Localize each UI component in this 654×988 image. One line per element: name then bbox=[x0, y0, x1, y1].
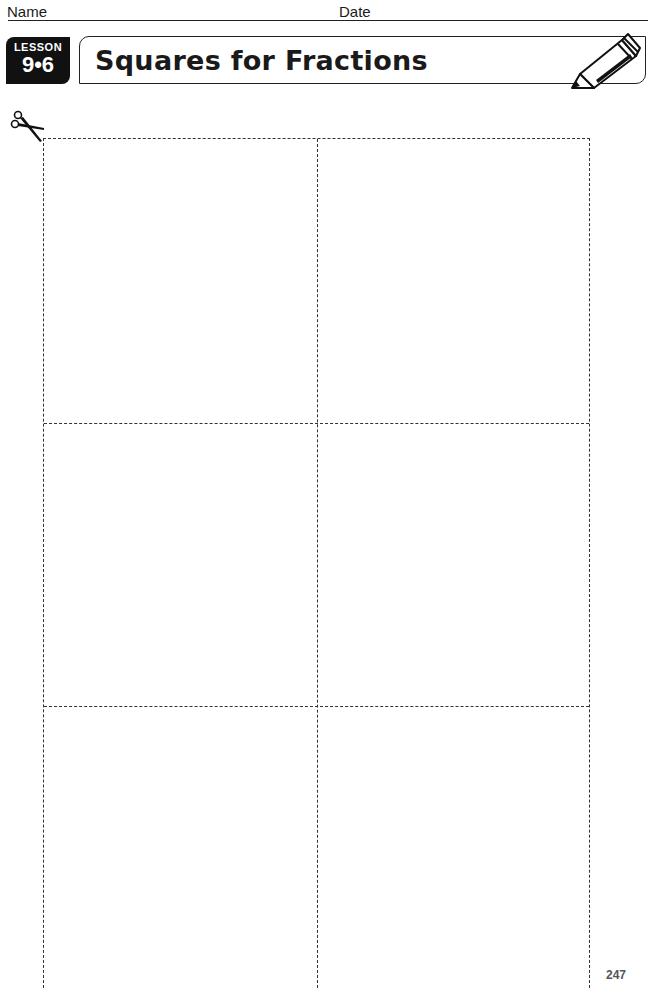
lesson-number: 9•6 bbox=[6, 54, 70, 76]
title-banner: Squares for Fractions bbox=[79, 36, 646, 84]
lesson-badge: LESSON 9•6 bbox=[6, 37, 70, 84]
name-date-line[interactable] bbox=[8, 20, 648, 21]
name-label: Name bbox=[7, 3, 47, 20]
cutout-grid bbox=[43, 138, 590, 988]
grid-horizontal-cut-line-2 bbox=[44, 706, 589, 707]
grid-horizontal-cut-line-1 bbox=[44, 423, 589, 424]
grid-vertical-cut-line bbox=[317, 139, 318, 988]
date-label: Date bbox=[339, 3, 371, 20]
pencil-icon bbox=[566, 30, 646, 90]
page-number: 247 bbox=[606, 968, 626, 982]
page-title: Squares for Fractions bbox=[95, 45, 428, 76]
